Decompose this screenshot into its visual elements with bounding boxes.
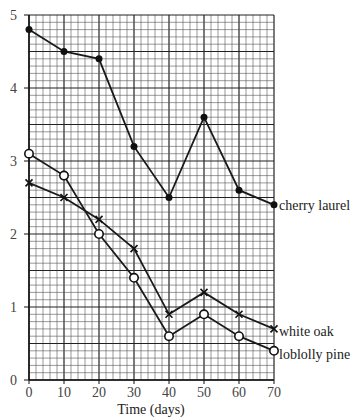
axes: 010203040506070012345 — [10, 8, 281, 400]
data-point — [166, 194, 173, 201]
data-point — [200, 310, 208, 318]
series-loblolly-pine — [25, 150, 278, 355]
x-axis-label: Time (days) — [117, 402, 185, 418]
series-label: white oak — [279, 324, 334, 339]
y-tick-label: 3 — [10, 154, 17, 169]
x-tick-label: 20 — [92, 385, 106, 400]
data-point — [236, 187, 243, 194]
line-chart: 010203040506070012345 cherry laurelwhite… — [0, 0, 360, 418]
series-lines — [25, 26, 278, 355]
x-tick-label: 10 — [57, 385, 71, 400]
data-point — [96, 55, 103, 62]
y-tick-label: 2 — [10, 227, 17, 242]
data-point — [271, 201, 278, 208]
data-point — [201, 114, 208, 121]
data-point — [26, 26, 33, 33]
data-point — [131, 143, 138, 150]
x-tick-label: 0 — [26, 385, 33, 400]
data-point — [270, 347, 278, 355]
data-point — [130, 274, 138, 282]
series-label: cherry laurel — [279, 198, 350, 213]
x-tick-label: 50 — [197, 385, 211, 400]
y-tick-label: 1 — [10, 300, 17, 315]
data-point — [25, 150, 33, 158]
data-point — [95, 230, 103, 238]
data-point — [61, 48, 68, 55]
y-tick-label: 0 — [10, 373, 17, 388]
grid — [29, 15, 274, 380]
data-point — [60, 171, 68, 179]
series-label: loblolly pine — [279, 347, 350, 362]
data-point — [165, 332, 173, 340]
data-point — [235, 332, 243, 340]
x-tick-label: 40 — [162, 385, 176, 400]
y-tick-label: 4 — [10, 81, 17, 96]
series-labels: cherry laurelwhite oakloblolly pine — [279, 198, 350, 362]
x-tick-label: 60 — [232, 385, 246, 400]
x-tick-label: 30 — [127, 385, 141, 400]
y-tick-label: 5 — [10, 8, 17, 23]
x-tick-label: 70 — [267, 385, 281, 400]
